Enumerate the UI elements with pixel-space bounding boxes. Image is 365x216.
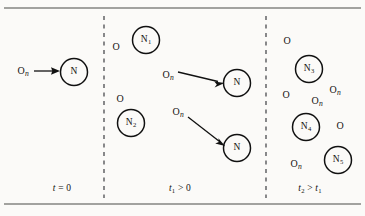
neutron-arrow [188,117,225,146]
panel-time-label-t1: t1 > 0 [169,184,191,194]
free-neutron-label: On [162,70,173,80]
free-neutron-label: O [112,42,119,52]
panel-time-label-t2: t2 > t1 [298,184,321,194]
free-neutron-label: O [336,121,343,131]
panel-t0-shapes [34,59,88,86]
free-neutron-label: On [329,85,340,95]
nucleus-label: N [71,67,78,77]
panel-t1-shapes [118,27,251,162]
nucleus-label: N [234,78,241,88]
free-neutron-label: On [290,159,301,169]
free-neutron-label: O [283,36,290,46]
neutron-arrow [34,67,60,75]
nucleus-label: N1 [141,35,151,45]
nucleus-label: N2 [126,118,136,128]
panel-time-label-t0: t = 0 [53,184,72,194]
nucleus-label: N [234,143,241,153]
free-neutron-label: O [116,94,123,104]
free-neutron-label: On [172,107,183,117]
nucleus-label: N4 [301,122,311,132]
nucleus-label: N5 [333,155,343,165]
free-neutron-label: On [311,96,322,106]
neutron-arrow [178,72,225,88]
free-neutron-label: On [17,66,28,76]
free-neutron-label: O [282,90,289,100]
panel-dividers [104,16,266,198]
decay-diagram-figure: On N t = 0 O N1 O N2 On On N N t1 > 0 O … [0,0,365,216]
nucleus-label: N3 [304,64,314,74]
frame-rules [4,8,361,204]
